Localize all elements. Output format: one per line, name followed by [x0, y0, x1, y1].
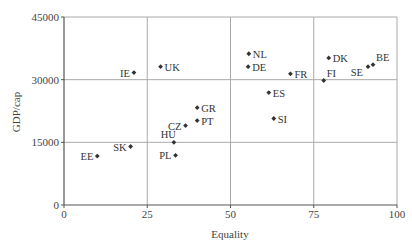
diamond-marker-icon [128, 144, 133, 149]
data-point-dk: DK [326, 53, 348, 64]
point-label: SI [278, 114, 288, 125]
diamond-marker-icon [288, 71, 293, 76]
diamond-marker-icon [271, 116, 276, 121]
diamond-marker-icon [158, 64, 163, 69]
data-point-fi: FI [321, 68, 336, 83]
diamond-marker-icon [195, 118, 200, 123]
y-tick-label: 15000 [32, 136, 60, 148]
point-label: NL [253, 49, 267, 60]
point-label: UK [165, 62, 181, 73]
point-label: GR [201, 103, 216, 114]
point-label: FR [294, 69, 307, 80]
data-point-pt: PT [195, 116, 214, 127]
point-label: SE [351, 67, 363, 78]
y-tick-label: 45000 [32, 11, 60, 23]
point-label: FI [327, 68, 337, 79]
data-point-es: ES [266, 88, 285, 99]
data-points: EESKIEUKHUPLCZGRPTNLDEESSIFRFIDKSEBE [80, 49, 389, 162]
point-label: CZ [168, 121, 181, 132]
diamond-marker-icon [246, 64, 251, 69]
x-tick-label: 25 [142, 208, 154, 220]
y-tick-label: 30000 [32, 74, 60, 86]
y-tick-label: 0 [54, 199, 60, 211]
data-point-nl: NL [246, 49, 266, 60]
data-point-pl: PL [159, 150, 178, 161]
point-label: DE [252, 62, 266, 73]
diamond-marker-icon [132, 70, 137, 75]
point-label: DK [333, 53, 349, 64]
point-label: EE [80, 151, 93, 162]
data-point-fr: FR [288, 69, 307, 80]
x-tick-label: 100 [389, 208, 406, 220]
data-point-be: BE [371, 52, 390, 67]
data-point-ee: EE [80, 151, 99, 162]
data-point-uk: UK [158, 62, 180, 73]
scatter-chart: 0255075100 0150003000045000 EESKIEUKHUPL… [0, 0, 412, 246]
point-label: ES [273, 88, 285, 99]
x-tick-label: 0 [61, 208, 67, 220]
diamond-marker-icon [326, 56, 331, 61]
diamond-marker-icon [171, 140, 176, 145]
diamond-marker-icon [266, 90, 271, 95]
data-point-de: DE [246, 62, 266, 73]
point-label: PL [159, 150, 171, 161]
x-tick-label: 50 [225, 208, 237, 220]
data-point-se: SE [351, 64, 371, 77]
axes [61, 17, 397, 208]
diamond-marker-icon [321, 78, 326, 83]
data-point-gr: GR [195, 103, 216, 114]
y-axis-title: GDP/cap [10, 91, 22, 132]
point-label: IE [120, 68, 130, 79]
y-tick-labels: 0150003000045000 [32, 11, 60, 211]
diamond-marker-icon [195, 105, 200, 110]
diamond-marker-icon [95, 154, 100, 159]
x-axis-title: Equality [211, 228, 249, 240]
data-point-sk: SK [113, 142, 133, 153]
diamond-marker-icon [371, 62, 376, 67]
data-point-cz: CZ [168, 121, 188, 132]
gridlines [64, 17, 397, 205]
diamond-marker-icon [246, 51, 251, 56]
diamond-marker-icon [366, 64, 371, 69]
point-label: BE [376, 52, 389, 63]
diamond-marker-icon [183, 123, 188, 128]
x-tick-labels: 0255075100 [61, 208, 406, 220]
data-point-ie: IE [120, 68, 136, 79]
point-label: SK [113, 142, 127, 153]
data-point-si: SI [271, 114, 287, 125]
point-label: PT [201, 116, 214, 127]
diamond-marker-icon [173, 153, 178, 158]
x-tick-label: 75 [308, 208, 320, 220]
